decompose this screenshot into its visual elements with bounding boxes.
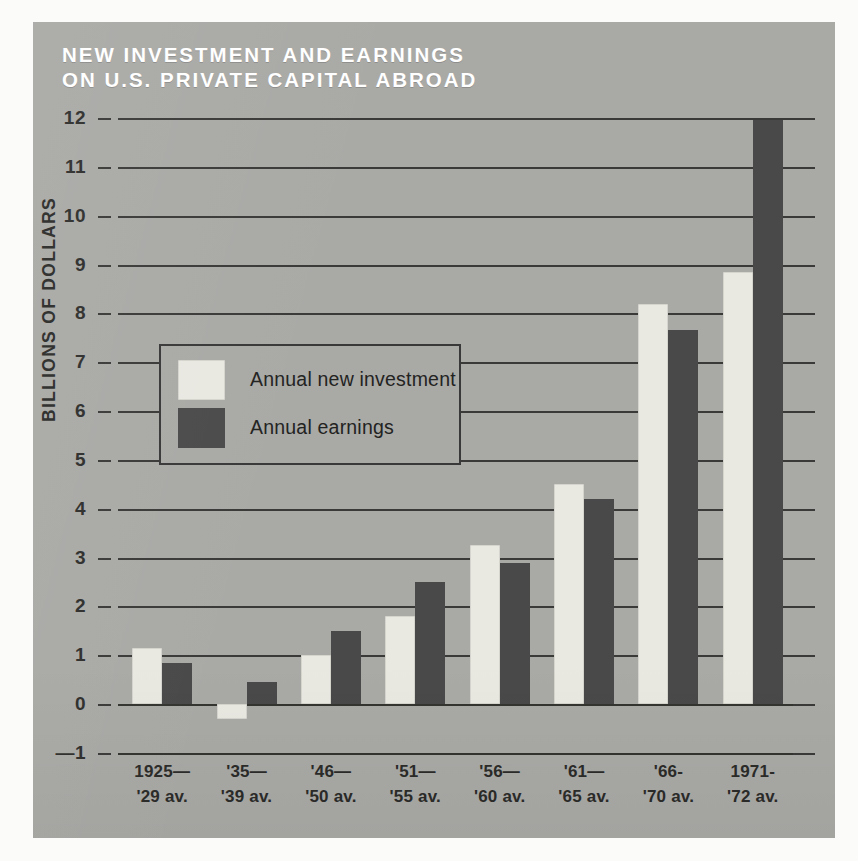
bar-4-investment bbox=[470, 545, 500, 704]
y-axis-label-8: 8 bbox=[46, 302, 86, 324]
x-axis-labels: 1925—'29 av.'35—'39 av.'46—'50 av.'51—'5… bbox=[118, 759, 793, 829]
y-tick-left-11 bbox=[98, 167, 111, 169]
y-axis-label-5: 5 bbox=[46, 449, 86, 471]
gridline--1 bbox=[118, 753, 793, 755]
bar-3-investment bbox=[385, 616, 415, 704]
y-tick-left-1 bbox=[98, 655, 111, 657]
y-tick-left-10 bbox=[98, 216, 111, 218]
bar-7-earnings bbox=[753, 120, 783, 704]
y-tick-right-7 bbox=[793, 362, 815, 364]
y-tick-right-1 bbox=[793, 655, 815, 657]
y-tick-right-2 bbox=[793, 606, 815, 608]
y-tick-right-10 bbox=[793, 216, 815, 218]
gridline-8 bbox=[118, 313, 793, 315]
bar-6-earnings bbox=[668, 330, 698, 704]
y-axis-label-7: 7 bbox=[46, 351, 86, 373]
y-axis-label-6: 6 bbox=[46, 400, 86, 422]
y-axis-label-1: 1 bbox=[46, 644, 86, 666]
gridline-12 bbox=[118, 118, 793, 120]
bar-6-investment bbox=[638, 304, 668, 705]
y-tick-left--1 bbox=[98, 753, 111, 755]
bar-2-earnings bbox=[331, 631, 361, 704]
chart-title-line1: NEW INVESTMENT AND EARNINGS bbox=[62, 43, 465, 66]
chart-title: NEW INVESTMENT AND EARNINGS ON U.S. PRIV… bbox=[62, 42, 582, 92]
gridline-11 bbox=[118, 167, 793, 169]
x-axis-category-4: '56—'60 av. bbox=[457, 759, 543, 809]
y-tick-right--1 bbox=[793, 753, 815, 755]
x-axis-category-7: 1971-'72 av. bbox=[710, 759, 796, 809]
bar-2-investment bbox=[301, 655, 331, 704]
y-tick-left-12 bbox=[98, 118, 111, 120]
x-axis-category-1: '35—'39 av. bbox=[204, 759, 290, 809]
y-tick-left-9 bbox=[98, 265, 111, 267]
figure-root: NEW INVESTMENT AND EARNINGS ON U.S. PRIV… bbox=[0, 0, 858, 861]
y-axis-label-0: 0 bbox=[46, 693, 86, 715]
y-tick-left-8 bbox=[98, 313, 111, 315]
legend-swatch-light bbox=[178, 360, 225, 400]
chart-title-line2: ON U.S. PRIVATE CAPITAL ABROAD bbox=[62, 67, 582, 92]
bar-5-investment bbox=[554, 484, 584, 704]
bar-1-earnings bbox=[247, 682, 277, 704]
x-axis-category-0: 1925—'29 av. bbox=[119, 759, 205, 809]
bar-1-investment bbox=[217, 704, 247, 719]
x-axis-category-3: '51—'55 av. bbox=[372, 759, 458, 809]
bar-3-earnings bbox=[415, 582, 445, 704]
y-tick-right-8 bbox=[793, 313, 815, 315]
y-axis-label--1: —1 bbox=[34, 742, 86, 764]
legend-label-annual-earnings: Annual earnings bbox=[250, 416, 394, 439]
y-tick-right-0 bbox=[793, 704, 815, 706]
y-tick-left-7 bbox=[98, 362, 111, 364]
bar-0-investment bbox=[132, 648, 162, 704]
y-tick-right-12 bbox=[793, 118, 815, 120]
bar-0-earnings bbox=[162, 663, 192, 705]
y-axis-label-11: 11 bbox=[46, 156, 86, 178]
bar-4-earnings bbox=[500, 563, 530, 705]
y-tick-left-2 bbox=[98, 606, 111, 608]
bar-5-earnings bbox=[584, 499, 614, 704]
y-axis-label-4: 4 bbox=[46, 498, 86, 520]
gridline-9 bbox=[118, 265, 793, 267]
y-tick-left-0 bbox=[98, 704, 111, 706]
legend-swatch-dark bbox=[178, 408, 225, 448]
y-tick-right-6 bbox=[793, 411, 815, 413]
y-tick-left-5 bbox=[98, 460, 111, 462]
legend-label-annual-new-investment: Annual new investment bbox=[250, 368, 456, 391]
y-tick-left-6 bbox=[98, 411, 111, 413]
bar-7-investment bbox=[723, 272, 753, 704]
y-axis-label-9: 9 bbox=[46, 254, 86, 276]
chart-panel: NEW INVESTMENT AND EARNINGS ON U.S. PRIV… bbox=[33, 22, 835, 838]
x-axis-category-6: '66-'70 av. bbox=[625, 759, 711, 809]
x-axis-category-5: '61—'65 av. bbox=[541, 759, 627, 809]
y-tick-right-4 bbox=[793, 509, 815, 511]
y-tick-right-5 bbox=[793, 460, 815, 462]
gridline-10 bbox=[118, 216, 793, 218]
y-tick-left-4 bbox=[98, 509, 111, 511]
y-tick-left-3 bbox=[98, 558, 111, 560]
y-axis-label-3: 3 bbox=[46, 547, 86, 569]
y-tick-right-9 bbox=[793, 265, 815, 267]
y-tick-right-11 bbox=[793, 167, 815, 169]
y-axis-label-10: 10 bbox=[46, 205, 86, 227]
chart-legend: Annual new investment Annual earnings bbox=[159, 344, 461, 465]
y-axis-label-2: 2 bbox=[46, 595, 86, 617]
x-axis-category-2: '46—'50 av. bbox=[288, 759, 374, 809]
y-tick-right-3 bbox=[793, 558, 815, 560]
y-axis-label-12: 12 bbox=[46, 107, 86, 129]
